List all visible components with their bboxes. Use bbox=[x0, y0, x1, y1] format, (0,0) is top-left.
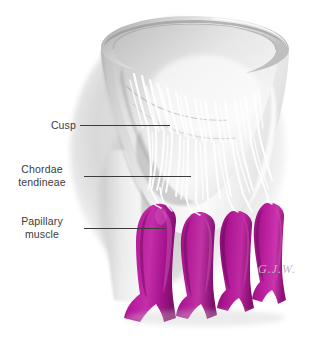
label-chordae-tendineae: Chordae tendineae bbox=[4, 163, 80, 188]
label-cusp-line1: Cusp bbox=[51, 119, 76, 131]
label-chordae-line2: tendineae bbox=[4, 176, 80, 189]
artist-signature: G.J.W. bbox=[258, 262, 296, 277]
papillary-muscle-3 bbox=[217, 211, 254, 312]
label-papillary-muscle: Papillary muscle bbox=[4, 215, 80, 240]
label-cusp: Cusp bbox=[10, 119, 76, 132]
leader-line-papillary-muscle bbox=[84, 228, 165, 229]
papillary-muscle-4 bbox=[252, 203, 286, 304]
label-papillary-line2: muscle bbox=[4, 228, 80, 241]
label-chordae-line1: Chordae bbox=[21, 163, 62, 175]
label-papillary-line1: Papillary bbox=[21, 215, 63, 227]
anatomical-figure: Cusp Chordae tendineae Papillary muscle … bbox=[0, 0, 323, 340]
leader-line-chordae-tendineae bbox=[84, 176, 191, 177]
leader-line-cusp bbox=[80, 125, 170, 126]
